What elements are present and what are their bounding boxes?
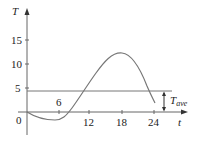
arrow-up-icon	[162, 92, 166, 97]
x-tick-label-6: 6	[56, 96, 62, 108]
origin-label: 0	[16, 114, 22, 126]
x-tick-label-18: 18	[116, 116, 128, 128]
temperature-curve	[27, 53, 155, 120]
y-tick-label-15: 15	[11, 34, 23, 46]
x-tick-label-24: 24	[148, 116, 160, 128]
chart: T t 15 10 5 0 6 12 18 24 Tave	[0, 0, 198, 145]
y-axis-arrow-icon	[25, 8, 30, 15]
arrow-down-icon	[162, 107, 166, 112]
t-ave-label: Tave	[170, 94, 188, 108]
y-tick-label-5: 5	[15, 82, 21, 94]
x-axis-arrow-icon	[181, 110, 188, 115]
y-tick-label-10: 10	[11, 58, 23, 70]
x-tick-label-12: 12	[83, 116, 94, 128]
y-axis-label: T	[12, 5, 19, 17]
x-axis-label: t	[178, 116, 182, 128]
